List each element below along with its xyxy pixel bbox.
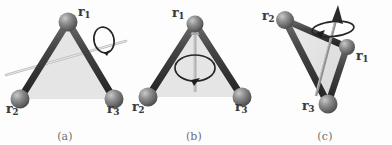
vertex-label-r1: r1 bbox=[356, 50, 369, 64]
sphere-r3 bbox=[319, 95, 338, 114]
panel-b-caption: (b) bbox=[130, 130, 258, 143]
vertex-label-r2: r2 bbox=[6, 103, 19, 117]
vertex-label-r1: r1 bbox=[78, 6, 91, 20]
vertex-label-r2: r2 bbox=[132, 101, 145, 115]
sphere-r1 bbox=[187, 16, 204, 33]
vertex-label-r3: r3 bbox=[107, 103, 120, 117]
panel-a: (a) r1 r2 r3 bbox=[0, 0, 130, 145]
panel-a-caption: (a) bbox=[0, 130, 130, 143]
panel-c-graphic bbox=[258, 0, 392, 125]
sphere-r2 bbox=[276, 11, 294, 29]
vertex-label-r3: r3 bbox=[235, 101, 248, 115]
rotation-direction-marker bbox=[92, 25, 117, 56]
panel-c: (c) r2 r1 r3 bbox=[258, 0, 392, 145]
sphere-r1 bbox=[59, 13, 78, 32]
panel-b: (b) r1 r2 r3 bbox=[130, 0, 258, 145]
vertex-label-r3: r3 bbox=[302, 100, 315, 114]
panel-c-caption: (c) bbox=[258, 130, 392, 143]
sphere-r1 bbox=[339, 39, 355, 55]
triangle-face bbox=[20, 22, 114, 99]
vertex-label-r2: r2 bbox=[262, 10, 275, 24]
principal-axes-figure: (a) r1 r2 r3 bbox=[0, 0, 392, 145]
vertex-label-r1: r1 bbox=[172, 7, 185, 21]
